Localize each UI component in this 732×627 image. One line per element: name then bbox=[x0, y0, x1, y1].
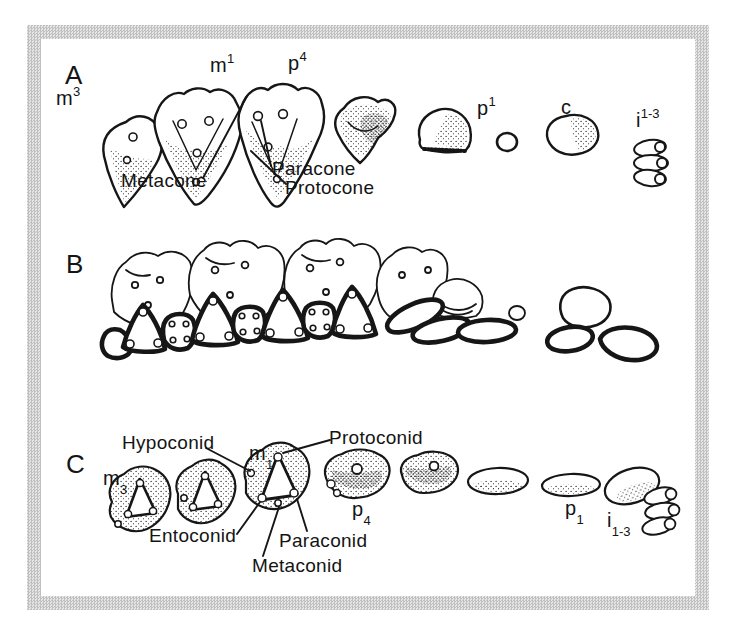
label-lower-incisors: i1-3 bbox=[607, 510, 631, 534]
panel-b-letter: B bbox=[66, 251, 84, 277]
teeth-upper-incisors bbox=[633, 138, 668, 188]
label-hypoconid: Hypoconid bbox=[122, 433, 214, 452]
label-upper-m3: m3 bbox=[56, 86, 80, 108]
label-base: p bbox=[352, 498, 363, 520]
label-upper-incisors: i1-3 bbox=[636, 108, 660, 130]
label-upper-p4: p4 bbox=[288, 51, 307, 73]
label-lower-p4: p4 bbox=[352, 499, 371, 523]
label-base: c bbox=[561, 96, 571, 118]
label-base: m bbox=[103, 467, 120, 489]
label-script: 3 bbox=[120, 482, 127, 497]
label-lower-m3: m3 bbox=[103, 468, 127, 492]
label-script: 4 bbox=[363, 513, 370, 528]
label-upper-m1: m1 bbox=[210, 53, 234, 75]
occlusion-row bbox=[102, 239, 657, 360]
label-script: 1 bbox=[227, 51, 234, 66]
tooth-upper-canine bbox=[547, 115, 598, 155]
label-base: p bbox=[565, 497, 576, 519]
label-paraconid: Paraconid bbox=[279, 531, 367, 550]
label-script: 1-3 bbox=[641, 106, 660, 121]
label-upper-canine: c bbox=[561, 97, 571, 117]
label-base: p bbox=[288, 52, 299, 74]
label-metaconid: Metaconid bbox=[252, 556, 342, 575]
label-entoconid: Entoconid bbox=[149, 526, 236, 545]
label-script: 1-3 bbox=[612, 524, 631, 539]
tooth-lower-p3 bbox=[401, 452, 458, 493]
label-script: 1 bbox=[576, 512, 583, 527]
label-lower-p1: p1 bbox=[565, 498, 584, 522]
label-metacone: Metacone bbox=[121, 171, 207, 190]
label-base: m bbox=[249, 442, 266, 464]
label-protocone: Protocone bbox=[285, 178, 374, 197]
label-script: 1 bbox=[488, 94, 495, 109]
label-base: m bbox=[56, 87, 73, 109]
tooth-upper-p1 bbox=[419, 109, 471, 152]
tooth-upper-p4 bbox=[335, 97, 395, 163]
tooth-upper-small bbox=[497, 133, 517, 151]
tooth-lower-p2 bbox=[468, 467, 529, 495]
label-base: m bbox=[210, 54, 227, 76]
label-protoconid: Protoconid bbox=[329, 428, 423, 447]
tooth-lower-m2 bbox=[176, 460, 235, 524]
label-upper-p1: p1 bbox=[477, 96, 496, 118]
label-base: p bbox=[477, 97, 488, 119]
tooth-lower-p4 bbox=[325, 450, 390, 499]
label-lower-m1: m1 bbox=[249, 443, 273, 467]
label-script: 4 bbox=[299, 49, 306, 64]
label-paracone: Paracone bbox=[272, 159, 356, 178]
panel-c-letter: C bbox=[66, 451, 85, 477]
tooth-upper-m3 bbox=[103, 116, 162, 207]
label-script: 1 bbox=[266, 457, 273, 472]
label-script: 3 bbox=[73, 84, 80, 99]
tooth-lower-p1 bbox=[542, 473, 601, 497]
